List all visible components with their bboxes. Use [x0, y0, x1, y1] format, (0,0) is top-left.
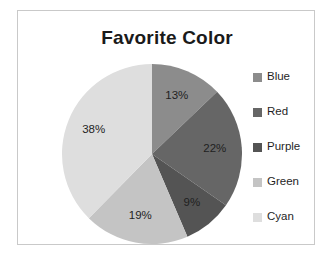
legend-swatch-blue [253, 73, 262, 82]
pie-data-label-green: 19% [129, 209, 152, 221]
pie-chart-svg: 13%22%9%19%38% [61, 63, 243, 245]
legend-item-green[interactable]: Green [253, 168, 315, 196]
chart-frame: Favorite Color 13%22%9%19%38% BlueRedPur… [17, 10, 315, 245]
pie-data-label-red: 22% [203, 142, 226, 154]
legend-item-blue[interactable]: Blue [253, 63, 315, 91]
legend-label-purple: Purple [267, 141, 300, 153]
legend-item-cyan[interactable]: Cyan [253, 203, 315, 231]
legend-item-red[interactable]: Red [253, 98, 315, 126]
legend-swatch-purple [253, 143, 262, 152]
legend-swatch-green [253, 178, 262, 187]
pie-data-label-purple: 9% [183, 196, 200, 208]
legend-item-purple[interactable]: Purple [253, 133, 315, 161]
legend-swatch-red [253, 108, 262, 117]
pie-plot-area: 13%22%9%19%38% [61, 63, 243, 245]
legend-swatch-cyan [253, 213, 262, 222]
legend-label-cyan: Cyan [267, 211, 294, 223]
pie-data-label-cyan: 38% [82, 123, 105, 135]
legend-label-green: Green [267, 176, 299, 188]
screenshot-root: Favorite Color 13%22%9%19%38% BlueRedPur… [0, 0, 332, 263]
chart-legend: BlueRedPurpleGreenCyan [253, 63, 315, 238]
legend-label-blue: Blue [267, 71, 290, 83]
chart-title: Favorite Color [18, 27, 316, 49]
legend-label-red: Red [267, 106, 288, 118]
pie-data-label-blue: 13% [165, 89, 188, 101]
